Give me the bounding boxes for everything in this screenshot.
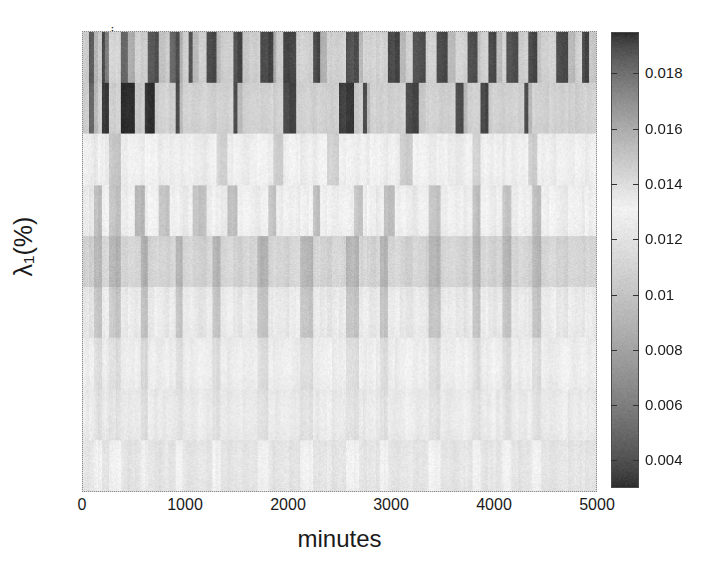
x-axis-tick-1000: 1000 bbox=[140, 497, 230, 513]
colorbar-tick-label-0.006: 0.006 bbox=[645, 397, 683, 412]
colorbar-tick-mark-left bbox=[611, 73, 617, 74]
x-axis-label: minutes bbox=[82, 525, 597, 553]
colorbar-tick-mark-right bbox=[633, 460, 639, 461]
heatmap-figure: λ₁(%) ihgfedcba 010002000300040005000 mi… bbox=[0, 0, 715, 566]
heatmap-canvas bbox=[83, 32, 596, 491]
colorbar-tick-mark-left bbox=[611, 129, 617, 130]
heatmap-plot-area bbox=[82, 31, 597, 492]
x-axis-tick-3000: 3000 bbox=[346, 497, 436, 513]
colorbar-tick-mark-left bbox=[611, 295, 617, 296]
colorbar-tick-mark-right bbox=[633, 129, 639, 130]
x-axis-tick-2000: 2000 bbox=[243, 497, 333, 513]
y-axis-label: λ₁(%) bbox=[9, 187, 38, 307]
x-axis-tick-0: 0 bbox=[37, 497, 127, 513]
colorbar-canvas bbox=[612, 33, 638, 487]
colorbar-tick-label-0.008: 0.008 bbox=[645, 342, 683, 357]
colorbar-tick-label-0.014: 0.014 bbox=[645, 176, 683, 191]
colorbar-tick-mark-left bbox=[611, 350, 617, 351]
x-axis-tick-5000: 5000 bbox=[552, 497, 642, 513]
colorbar-tick-mark-left bbox=[611, 405, 617, 406]
colorbar-tick-mark-right bbox=[633, 350, 639, 351]
colorbar-tick-mark-left bbox=[611, 184, 617, 185]
colorbar-tick-mark-left bbox=[611, 460, 617, 461]
y-axis-label-text: λ₁(%) bbox=[9, 217, 37, 277]
colorbar-tick-label-0.01: 0.01 bbox=[645, 287, 674, 302]
colorbar-tick-mark-right bbox=[633, 239, 639, 240]
colorbar-tick-label-0.004: 0.004 bbox=[645, 452, 683, 467]
x-axis-tick-4000: 4000 bbox=[449, 497, 539, 513]
colorbar bbox=[611, 32, 639, 488]
colorbar-tick-mark-right bbox=[633, 295, 639, 296]
x-axis-label-text: minutes bbox=[297, 525, 381, 552]
colorbar-tick-mark-right bbox=[633, 405, 639, 406]
colorbar-tick-label-0.012: 0.012 bbox=[645, 231, 683, 246]
colorbar-tick-mark-right bbox=[633, 73, 639, 74]
colorbar-tick-label-0.018: 0.018 bbox=[645, 65, 683, 80]
colorbar-tick-mark-right bbox=[633, 184, 639, 185]
colorbar-tick-mark-left bbox=[611, 239, 617, 240]
colorbar-tick-label-0.016: 0.016 bbox=[645, 121, 683, 136]
